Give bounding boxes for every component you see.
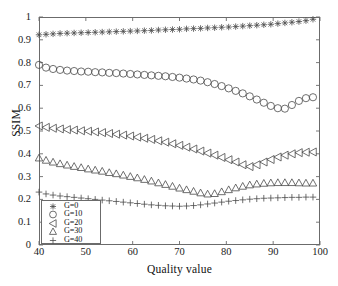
data-marker-circle <box>78 68 85 75</box>
data-marker-asterisk <box>64 30 70 36</box>
data-marker-circle <box>281 105 288 112</box>
data-marker-circle <box>211 80 218 87</box>
x-ticklabel: 50 <box>81 247 92 258</box>
data-marker-plus <box>162 202 169 209</box>
data-marker-left-triangle <box>260 158 267 166</box>
data-marker-plus <box>50 237 56 243</box>
data-marker-asterisk <box>247 22 253 28</box>
data-marker-circle <box>302 95 309 102</box>
data-marker-up-triangle <box>253 180 260 187</box>
data-marker-asterisk <box>50 31 56 37</box>
x-axis-ticklabels: 405060708090100 <box>0 247 338 263</box>
data-marker-asterisk <box>254 22 260 28</box>
data-marker-up-triangle <box>232 184 239 191</box>
data-marker-circle <box>232 87 239 94</box>
data-marker-asterisk <box>183 26 189 32</box>
data-marker-circle <box>162 73 169 80</box>
y-ticklabel: 1 <box>0 12 35 23</box>
data-marker-circle <box>71 67 78 74</box>
data-marker-circle <box>92 69 99 76</box>
data-marker-left-triangle <box>112 130 119 138</box>
data-marker-up-triangle <box>246 181 253 188</box>
data-marker-plus <box>127 200 134 207</box>
data-marker-plus <box>261 195 268 202</box>
data-marker-circle <box>113 69 120 76</box>
data-marker-left-triangle <box>197 147 204 155</box>
y-ticklabel: 0.2 <box>0 194 35 205</box>
data-marker-circle <box>295 97 302 104</box>
series-G-10 <box>35 61 316 112</box>
data-marker-left-triangle <box>77 127 84 135</box>
legend-item[interactable]: G=40 <box>42 236 100 244</box>
data-marker-plus <box>282 194 289 201</box>
data-marker-left-triangle <box>133 133 140 141</box>
data-marker-circle <box>120 70 127 77</box>
data-marker-up-triangle <box>134 174 141 181</box>
data-marker-plus <box>113 198 120 205</box>
data-marker-circle <box>49 65 56 72</box>
data-marker-plus <box>253 195 260 202</box>
data-marker-asterisk <box>197 25 203 31</box>
data-marker-plus <box>232 197 239 204</box>
x-ticklabel: 60 <box>127 247 138 258</box>
data-marker-up-triangle <box>120 171 127 178</box>
data-marker-circle <box>288 101 295 108</box>
data-marker-left-triangle <box>246 163 253 171</box>
data-marker-plus <box>197 202 204 209</box>
data-marker-plus <box>296 194 303 201</box>
data-marker-plus <box>239 197 246 204</box>
data-marker-left-triangle <box>168 140 175 148</box>
data-marker-asterisk <box>261 22 267 28</box>
chart-figure: 00.10.20.30.40.50.60.70.80.91 4050607080… <box>0 0 338 286</box>
data-marker-plus <box>155 202 162 209</box>
data-marker-up-triangle <box>218 188 225 195</box>
data-marker-plus <box>134 200 141 207</box>
data-marker-left-triangle <box>119 131 126 139</box>
data-marker-circle <box>204 79 211 86</box>
data-marker-left-triangle <box>98 129 105 137</box>
data-marker-asterisk <box>106 29 112 35</box>
data-marker-up-triangle <box>267 179 274 186</box>
data-marker-left-triangle <box>91 128 98 136</box>
data-marker-up-triangle <box>77 164 84 171</box>
data-marker-asterisk <box>148 27 154 33</box>
legend-label: G=40 <box>64 236 82 244</box>
data-marker-left-triangle <box>56 125 63 133</box>
series-G-0 <box>36 16 316 38</box>
data-marker-left-triangle <box>204 149 211 157</box>
data-marker-left-triangle <box>35 122 42 130</box>
data-marker-left-triangle <box>267 156 274 164</box>
data-marker-plus <box>303 194 310 201</box>
data-marker-asterisk <box>155 27 161 33</box>
data-marker-circle <box>239 90 246 97</box>
data-marker-asterisk <box>57 30 63 36</box>
data-marker-up-triangle <box>176 184 183 191</box>
data-marker-left-triangle <box>84 127 91 135</box>
data-marker-plus <box>268 195 275 202</box>
data-marker-circle <box>50 211 57 218</box>
x-ticklabel: 90 <box>268 247 279 258</box>
data-marker-circle <box>176 74 183 81</box>
data-marker-plus <box>50 192 57 199</box>
data-marker-plus <box>120 199 127 206</box>
data-marker-plus <box>57 193 64 200</box>
data-marker-up-triangle <box>274 179 281 186</box>
data-marker-left-triangle <box>288 150 295 158</box>
data-marker-left-triangle <box>190 145 197 153</box>
data-marker-plus <box>211 200 218 207</box>
data-marker-circle <box>134 71 141 78</box>
data-marker-plus <box>218 199 225 206</box>
data-marker-up-triangle <box>99 167 106 174</box>
series-G-20 <box>35 122 316 171</box>
data-marker-circle <box>141 71 148 78</box>
data-marker-asterisk <box>303 17 309 23</box>
data-marker-up-triangle <box>211 190 218 197</box>
data-marker-up-triangle <box>127 173 134 180</box>
data-marker-up-triangle <box>302 179 309 186</box>
y-ticklabel: 0.1 <box>0 217 35 228</box>
data-marker-up-triangle <box>197 189 204 196</box>
data-marker-left-triangle <box>42 123 49 131</box>
data-marker-asterisk <box>310 16 316 22</box>
data-marker-plus <box>141 201 148 208</box>
data-marker-up-triangle <box>113 170 120 177</box>
